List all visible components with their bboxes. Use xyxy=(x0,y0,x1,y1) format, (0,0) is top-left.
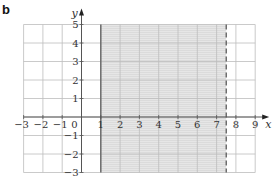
y-tick-label: 1 xyxy=(72,93,78,104)
x-tick-label: −3 xyxy=(14,119,29,130)
x-tick-label: 1 xyxy=(98,119,104,130)
x-tick-label: 3 xyxy=(136,119,142,130)
y-tick-label: 2 xyxy=(72,75,78,86)
y-tick-label: −2 xyxy=(64,149,79,160)
x-tick-label: 8 xyxy=(233,119,239,130)
y-tick-label: 5 xyxy=(72,19,78,30)
x-tick-label: −2 xyxy=(34,119,49,130)
x-tick-label: 6 xyxy=(194,119,200,130)
x-tick-label: 7 xyxy=(213,119,219,130)
y-axis-arrow-icon xyxy=(79,9,84,16)
x-tick-label: −1 xyxy=(53,119,68,130)
x-tick-label: 4 xyxy=(156,119,162,130)
x-tick-label: 9 xyxy=(252,119,258,130)
y-axis-label: y xyxy=(71,7,79,20)
y-tick-label: −1 xyxy=(64,130,79,141)
region-chart: −3−2−1123456789−3−2−1123450xy xyxy=(0,0,278,188)
y-tick-label: 4 xyxy=(72,38,78,49)
y-tick-label: 3 xyxy=(72,56,78,67)
x-tick-label: 5 xyxy=(175,119,181,130)
x-tick-label: 2 xyxy=(117,119,123,130)
origin-label: 0 xyxy=(71,119,77,130)
x-axis-label: x xyxy=(265,118,272,131)
y-tick-label: −3 xyxy=(64,167,79,178)
